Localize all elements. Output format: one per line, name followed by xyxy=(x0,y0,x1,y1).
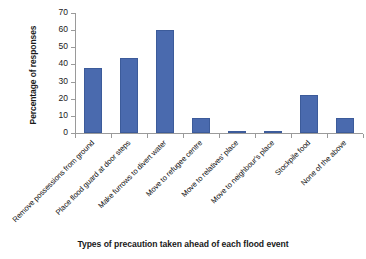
y-tick: 60 xyxy=(71,30,75,31)
y-tick-label: 50 xyxy=(59,41,68,51)
bar xyxy=(120,58,138,133)
y-tick: 50 xyxy=(71,47,75,48)
bar xyxy=(336,118,354,133)
y-axis-title: Percentage of responses xyxy=(26,16,40,134)
y-tick-label: 60 xyxy=(59,24,68,34)
y-tick-label: 30 xyxy=(59,76,68,86)
bar xyxy=(84,68,102,133)
x-tick xyxy=(147,134,148,138)
bar-chart: Percentage of responses 010203040506070 … xyxy=(0,0,366,259)
bar xyxy=(300,95,318,133)
y-tick: 20 xyxy=(71,99,75,100)
y-tick: 30 xyxy=(71,82,75,83)
x-tick xyxy=(327,134,328,138)
y-tick-label: 20 xyxy=(59,93,68,103)
bar xyxy=(156,30,174,133)
x-tick xyxy=(219,134,220,138)
x-tick xyxy=(183,134,184,138)
y-tick-label: 10 xyxy=(59,110,68,120)
x-tick xyxy=(111,134,112,138)
y-axis-line xyxy=(75,13,76,134)
x-axis-title: Types of precaution taken ahead of each … xyxy=(0,239,366,249)
y-tick: 40 xyxy=(71,64,75,65)
plot-area: 010203040506070 xyxy=(75,13,363,134)
bar xyxy=(228,131,246,133)
bar xyxy=(264,131,282,133)
x-tick xyxy=(75,134,76,138)
y-tick: 10 xyxy=(71,116,75,117)
x-tick xyxy=(255,134,256,138)
y-tick-label: 40 xyxy=(59,58,68,68)
y-tick-label: 70 xyxy=(59,7,68,17)
y-tick-label: 0 xyxy=(63,127,68,137)
x-tick xyxy=(291,134,292,138)
bar xyxy=(192,118,210,133)
x-tick xyxy=(363,134,364,138)
y-tick: 70 xyxy=(71,13,75,14)
